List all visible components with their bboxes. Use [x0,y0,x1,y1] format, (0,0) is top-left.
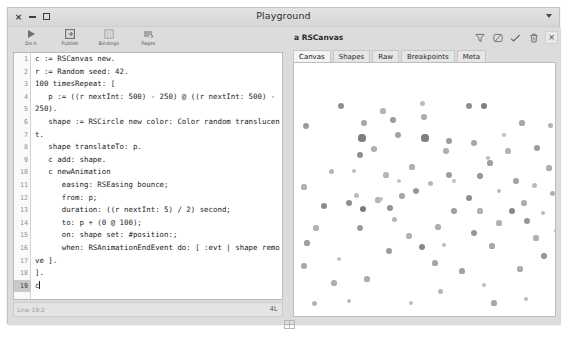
canvas-dot[interactable] [312,301,317,306]
canvas-dot[interactable] [395,132,401,138]
canvas-dot[interactable] [301,184,306,189]
canvas-dot[interactable] [471,140,476,145]
canvas-dot[interactable] [466,103,472,109]
canvas-dot[interactable] [413,188,419,194]
canvas-dot[interactable] [548,123,553,128]
canvas-dot[interactable] [435,224,440,229]
canvas-dot[interactable] [481,103,488,110]
canvas-view[interactable] [293,62,556,317]
code-line[interactable]: c add: shape. [32,154,282,167]
canvas-dot[interactable] [303,123,309,129]
canvas-dot[interactable] [532,183,537,188]
canvas-dot[interactable] [502,133,507,138]
canvas-dot[interactable] [432,260,437,265]
canvas-dot[interactable] [357,152,363,158]
canvas-dot[interactable] [466,195,472,201]
canvas-dot[interactable] [386,248,392,254]
resize-grip[interactable] [284,320,295,329]
canvas-dot[interactable] [352,169,357,174]
canvas-dot[interactable] [331,280,336,285]
code-line[interactable]: c [32,280,282,293]
chevron-down-icon[interactable] [546,14,552,18]
canvas-dot[interactable] [519,120,524,125]
canvas-dot[interactable] [482,283,487,288]
canvas-dot[interactable] [446,172,452,178]
canvas-dot[interactable] [338,103,344,109]
canvas-dot[interactable] [301,263,307,269]
code-line[interactable]: shape translateTo: p. [32,141,282,154]
canvas-dot[interactable] [360,206,367,213]
canvas-dot[interactable] [354,193,359,198]
code-line[interactable]: from: p; [32,192,282,205]
canvas-dot[interactable] [313,225,318,230]
canvas-dot[interactable] [524,218,530,224]
canvas-dot[interactable] [419,244,425,250]
canvas-dot[interactable] [521,200,526,205]
code-line[interactable]: c newAnimation [32,166,282,179]
code-line[interactable]: to: p + (0 @ 100); [32,217,282,230]
canvas-dot[interactable] [471,230,477,236]
canvas-dot[interactable] [524,297,529,302]
canvas-dot[interactable] [459,268,464,273]
canvas-dot[interactable] [392,217,397,222]
canvas-dot[interactable] [442,243,447,248]
code-line[interactable]: easing: RSEasing bounce; [32,179,282,192]
canvas-dot[interactable] [383,172,388,177]
code-text-area[interactable]: c := RSCanvas new.r := Random seed: 42.1… [32,53,282,299]
canvas-dot[interactable] [541,253,547,259]
publish-button[interactable]: Publish [49,28,91,50]
code-line[interactable]: on: shape set: #position:; [32,229,282,242]
canvas-dot[interactable] [438,289,443,294]
canvas-dot[interactable] [554,229,556,234]
bindings-button[interactable]: Bindings [88,28,130,50]
canvas-dot[interactable] [329,169,334,174]
canvas-dot[interactable] [428,181,433,186]
inspect-icon[interactable] [509,31,522,44]
code-line[interactable]: when: RSAnimationEndEvent do: [ :evt | s… [32,242,282,255]
canvas-dot[interactable] [387,205,393,211]
code-line[interactable]: ve ]. [32,255,282,268]
canvas-dot[interactable] [477,208,482,213]
code-line[interactable]: 100 timesRepeat: [ [32,78,282,91]
canvas-dot[interactable] [421,114,426,119]
pages-button[interactable]: Pages [127,28,169,50]
canvas-dot[interactable] [420,101,425,106]
canvas-dot[interactable] [533,235,538,240]
canvas-dot[interactable] [497,189,502,194]
code-line[interactable]: c := RSCanvas new. [32,53,282,66]
canvas-dot[interactable] [477,173,483,179]
canvas-dot[interactable] [380,108,385,113]
canvas-dot[interactable] [399,193,404,198]
canvas-dot[interactable] [379,197,383,201]
close-inspector-button[interactable]: × [545,31,558,44]
canvas-dot[interactable] [357,225,363,231]
code-editor[interactable]: 12345678910111213141516171819 c := RSCan… [13,52,283,300]
canvas-dot[interactable] [446,138,452,144]
canvas-dot[interactable] [505,148,510,153]
code-line[interactable]: r := Random seed: 42. [32,66,282,79]
code-line[interactable]: p := ((r nextInt: 500) - 250) @ ((r next… [32,91,282,104]
canvas-dot[interactable] [346,200,352,206]
canvas-dot[interactable] [489,243,494,248]
canvas-dot[interactable] [390,117,396,123]
canvas-dot[interactable] [517,266,522,271]
canvas-dot[interactable] [451,208,456,213]
filter-icon[interactable] [473,31,486,44]
canvas-dot[interactable] [496,220,501,225]
code-line[interactable]: shape := RSCircle new color: Color rando… [32,116,282,129]
canvas-dot[interactable] [534,145,540,151]
canvas-dot[interactable] [397,179,402,184]
canvas-dot[interactable] [541,211,546,216]
canvas-dot[interactable] [347,299,352,304]
canvas-dot[interactable] [321,203,327,209]
code-line[interactable]: ]. [32,267,282,280]
canvas-dot[interactable] [361,120,367,126]
canvas-dot[interactable] [491,300,496,305]
code-line[interactable]: t. [32,129,282,142]
canvas-dot[interactable] [406,233,411,238]
canvas-dot[interactable] [546,165,551,170]
line-ending-indicator[interactable]: 4L [270,305,278,313]
canvas-dot[interactable] [509,208,515,214]
canvas-dot[interactable] [409,301,414,306]
canvas-dot[interactable] [421,134,428,141]
